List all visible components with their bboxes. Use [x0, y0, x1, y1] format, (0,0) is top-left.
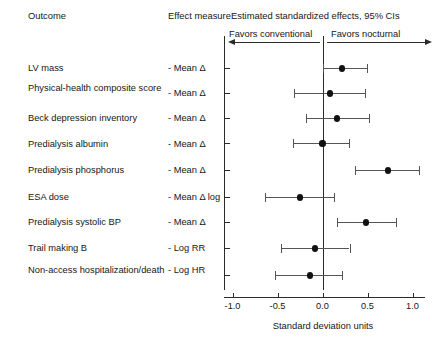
effect-measure-label: - Mean Δ [168, 113, 206, 124]
ci-cap-high [342, 271, 343, 280]
forest-plot-figure: Outcome Effect measure Estimated standar… [0, 0, 442, 347]
ci-cap-low [323, 64, 324, 73]
ci-cap-low [355, 166, 356, 175]
effect-measure-label: - Log RR [168, 243, 205, 254]
ci-cap-high [334, 193, 335, 202]
x-axis-tick-label: 1.0 [393, 301, 433, 311]
ci-cap-low [275, 271, 276, 280]
ci-cap-low [306, 114, 307, 123]
row-notch [225, 68, 230, 69]
effect-measure-label: - Mean Δ [168, 88, 206, 99]
point-estimate-marker [297, 194, 303, 200]
arrow-right-icon [425, 39, 432, 45]
ci-cap-high [367, 64, 368, 73]
outcome-label: ESA dose [28, 192, 69, 203]
ci-cap-high [419, 166, 420, 175]
point-estimate-marker [312, 245, 318, 251]
outcome-label: Predialysis phosphorus [28, 165, 124, 176]
x-axis-tick [278, 293, 279, 297]
ci-cap-high [350, 244, 351, 253]
ci-cap-low [265, 193, 266, 202]
outcome-label: Non-access hospitalization/death [28, 265, 178, 276]
ci-cap-low [281, 244, 282, 253]
row-notch [225, 248, 230, 249]
row-notch [225, 275, 230, 276]
ci-cap-low [337, 218, 338, 227]
ci-cap-high [365, 89, 366, 98]
arrow-left-shaft [234, 42, 320, 43]
row-notch [225, 222, 230, 223]
effect-measure-label: - Log HR [168, 265, 205, 276]
x-axis-tick-label: 0.0 [303, 301, 343, 311]
effect-measure-label: - Mean Δ [168, 217, 206, 228]
effect-measure-label: - Mean Δ log [168, 192, 220, 203]
row-notch [225, 197, 230, 198]
x-axis-tick-label: 0.5 [348, 301, 388, 311]
favors-conventional-label: Favors conventional [229, 29, 312, 40]
effect-measure-label: - Mean Δ [168, 165, 206, 176]
point-estimate-marker [339, 65, 345, 71]
x-axis-tick [413, 293, 414, 297]
point-estimate-marker [334, 115, 340, 121]
column-header-outcome: Outcome [28, 10, 66, 21]
x-axis-title: Standard deviation units [213, 320, 433, 331]
x-axis-line [224, 297, 425, 298]
row-notch [225, 170, 230, 171]
point-estimate-marker [363, 219, 369, 225]
effect-measure-label: - Mean Δ [168, 139, 206, 150]
outcome-label: Physical-health composite score [28, 83, 178, 94]
outcome-label: Predialysis albumin [28, 139, 108, 150]
row-notch [225, 143, 230, 144]
plot-left-border [224, 36, 225, 290]
x-axis-tick [233, 293, 234, 297]
point-estimate-marker [319, 140, 325, 146]
ci-cap-low [293, 139, 294, 148]
favors-nocturnal-label: Favors nocturnal [331, 29, 400, 40]
ci-cap-high [349, 139, 350, 148]
outcome-label: Trail making B [28, 243, 87, 254]
zero-reference-line [323, 36, 324, 290]
point-estimate-marker [385, 167, 391, 173]
arrow-right-shaft [327, 42, 425, 43]
outcome-label: Predialysis systolic BP [28, 217, 121, 228]
ci-cap-high [369, 114, 370, 123]
effect-measure-label: - Mean Δ [168, 63, 206, 74]
point-estimate-marker [327, 90, 333, 96]
ci-cap-low [294, 89, 295, 98]
x-axis-tick [323, 293, 324, 297]
point-estimate-marker [307, 272, 313, 278]
outcome-label: Beck depression inventory [28, 113, 137, 124]
x-axis-tick-label: -1.0 [213, 301, 253, 311]
column-header-effect-measure: Effect measure [168, 10, 231, 21]
row-notch [225, 93, 230, 94]
ci-cap-high [396, 218, 397, 227]
arrow-left-icon [228, 39, 235, 45]
outcome-label: LV mass [28, 63, 63, 74]
row-notch [225, 118, 230, 119]
x-axis-tick [368, 293, 369, 297]
x-axis-tick-label: -0.5 [258, 301, 298, 311]
plot-column-title: Estimated standardized effects, 95% CIs [231, 10, 400, 21]
